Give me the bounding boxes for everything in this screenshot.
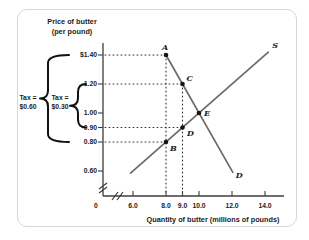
x-axis-title: Quantity of butter (millions of pounds)	[147, 215, 281, 224]
figure: $1.401.201.000.900.800.606.08.09.010.012…	[0, 0, 309, 240]
point-dot-E	[197, 111, 202, 116]
price-tick-label: 0.80	[84, 138, 97, 145]
point-label-B: B	[169, 143, 177, 153]
quantity-tick-label: 9.0	[178, 202, 188, 209]
price-tick-label: 1.00	[84, 109, 97, 116]
tax-label: Tax =	[19, 94, 36, 101]
tax-label: $0.30	[51, 103, 68, 111]
quantity-tick-label: 6.0	[128, 202, 138, 209]
price-tick-label: $1.40	[80, 51, 97, 59]
point-dot-A	[164, 53, 169, 58]
supply-curve-label: S	[272, 40, 278, 50]
quantity-tick-label: 14.0	[258, 202, 271, 209]
point-label-D: D	[186, 128, 194, 138]
quantity-tick-label: 10.0	[192, 202, 205, 209]
point-dot-D	[180, 125, 185, 130]
tax-label: Tax =	[51, 94, 68, 101]
demand-curve-label: D	[235, 170, 243, 180]
y-axis-title: Price of butter	[47, 17, 97, 26]
quantity-tick-label: 8.0	[161, 202, 171, 209]
price-tick-label: 0.60	[84, 167, 97, 174]
point-label-C: C	[187, 73, 194, 83]
point-label-A: A	[161, 42, 168, 52]
point-dot-C	[180, 82, 185, 87]
supply-demand-chart: $1.401.201.000.900.800.606.08.09.010.012…	[0, 0, 309, 240]
quantity-tick-label: 12.0	[225, 202, 238, 209]
point-dot-B	[164, 140, 169, 145]
y-axis-title: (per pound)	[52, 27, 93, 36]
origin-label: 0	[94, 202, 98, 209]
tax-brace-inner	[70, 84, 86, 128]
point-label-E: E	[203, 108, 211, 118]
tax-label: $0.60	[19, 103, 36, 111]
